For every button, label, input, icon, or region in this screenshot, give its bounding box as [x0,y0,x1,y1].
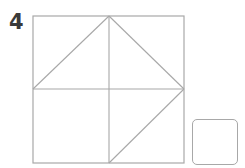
answer-box[interactable] [192,119,238,165]
diagonal-right-mid-to-bottom-center-line [109,89,184,163]
diagonal-left-mid-to-top-center-line [33,16,109,89]
diagonal-top-center-to-right-mid-line [109,16,184,89]
